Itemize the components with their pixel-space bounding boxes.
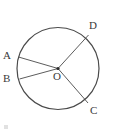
radius-line-od xyxy=(58,35,89,69)
radius-line-oc xyxy=(58,69,88,104)
point-label-b: B xyxy=(3,73,10,84)
point-label-c: C xyxy=(90,105,97,116)
circle-diagram-figure: A B C D O xyxy=(0,0,114,133)
radius-line-oa xyxy=(19,57,59,69)
scan-artifact-speck xyxy=(4,125,8,129)
point-label-d: D xyxy=(89,20,97,31)
center-label-o: O xyxy=(53,71,61,82)
point-label-a: A xyxy=(3,50,11,61)
